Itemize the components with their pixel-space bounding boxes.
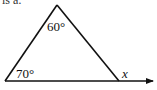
angle-label-bottom-left: 70° — [16, 66, 34, 81]
angle-label-apex: 60° — [47, 19, 65, 34]
triangle-diagram: 60° 70° x — [0, 0, 157, 90]
right-side — [57, 5, 119, 81]
angle-label-exterior-x: x — [121, 66, 128, 81]
